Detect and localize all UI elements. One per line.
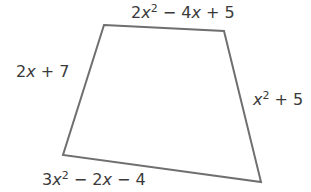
side-label-left: 2x + 7 <box>16 64 69 80</box>
side-label-top: 2x2 − 4x + 5 <box>131 5 235 21</box>
constant: − 4 <box>112 170 146 189</box>
coef: 3 <box>42 170 52 189</box>
constant: + 7 <box>36 62 70 81</box>
variable: x <box>52 170 61 189</box>
variable: x <box>191 3 200 22</box>
variable: x <box>102 170 111 189</box>
term: − 2 <box>69 170 103 189</box>
exponent: 2 <box>151 2 158 15</box>
constant: + 5 <box>201 3 235 22</box>
quadrilateral <box>63 25 261 182</box>
variable: x <box>26 62 35 81</box>
coef: 2 <box>16 62 26 81</box>
variable: x <box>141 3 150 22</box>
constant: + 5 <box>269 90 303 109</box>
term: − 4 <box>158 3 192 22</box>
side-label-right: x2 + 5 <box>253 92 303 108</box>
coef: 2 <box>131 3 141 22</box>
exponent: 2 <box>62 169 69 182</box>
side-label-bottom: 3x2 − 2x − 4 <box>42 172 146 188</box>
